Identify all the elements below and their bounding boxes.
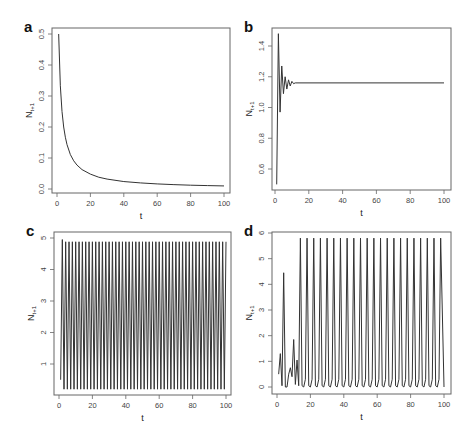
y-tick-label: 1.0 — [257, 102, 266, 112]
y-tick-label: 2 — [257, 334, 266, 338]
panel-label: c — [26, 222, 34, 239]
x-axis: 020406080100 — [273, 190, 450, 205]
panel-label: b — [244, 18, 253, 35]
x-tick-label: 0 — [57, 401, 61, 410]
y-axis: 0.00.10.20.30.40.5 — [37, 29, 52, 194]
x-axis: 020406080100 — [275, 394, 450, 409]
x-axis-label: t — [141, 413, 144, 423]
y-axis: 0123456 — [257, 231, 272, 389]
x-tick-label: 20 — [305, 196, 313, 205]
series-line — [61, 240, 226, 390]
x-tick-label: 0 — [55, 199, 59, 208]
x-tick-label: 80 — [188, 401, 196, 410]
x-axis-label: t — [360, 412, 363, 422]
y-tick-label: 1 — [257, 359, 266, 363]
panel-a: a020406080100t0.00.10.20.30.40.5Nt+1 — [24, 18, 230, 221]
panel-c: c020406080100t12345Nt+1 — [26, 222, 232, 423]
panel-b: b020406080100t0.60.81.01.21.4Nt+1 — [244, 18, 451, 218]
y-tick-label: 5 — [39, 236, 48, 240]
panel-d: d020406080100t0123456Nt+1 — [244, 222, 451, 422]
x-tick-label: 20 — [306, 400, 314, 409]
y-tick-label: 0.2 — [37, 122, 46, 132]
y-axis-label: Nt+1 — [244, 101, 255, 117]
plot-frame — [52, 28, 230, 193]
y-axis-label: Nt+1 — [24, 102, 35, 118]
x-axis-label: t — [140, 211, 143, 221]
x-tick-label: 60 — [373, 400, 381, 409]
y-tick-label: 1.2 — [257, 72, 266, 82]
x-tick-label: 20 — [86, 199, 94, 208]
x-tick-label: 40 — [338, 196, 346, 205]
caption-fragment — [30, 428, 450, 438]
x-tick-label: 40 — [120, 199, 128, 208]
x-tick-label: 80 — [186, 199, 194, 208]
y-tick-label: 4 — [39, 267, 48, 271]
y-tick-label: 4 — [257, 282, 266, 286]
y-tick-label: 1.4 — [257, 41, 266, 51]
x-tick-label: 60 — [155, 401, 163, 410]
y-tick-label: 2 — [39, 330, 48, 334]
y-axis-label: Nt+1 — [244, 305, 255, 321]
y-tick-label: 0.5 — [37, 29, 46, 39]
y-tick-label: 0.8 — [257, 133, 266, 143]
y-tick-label: 3 — [39, 299, 48, 303]
series-line — [277, 34, 444, 185]
x-tick-label: 100 — [438, 400, 451, 409]
y-tick-label: 0.4 — [37, 60, 46, 70]
x-tick-label: 80 — [406, 400, 414, 409]
x-axis-label: t — [360, 208, 363, 218]
series-line — [59, 34, 224, 186]
x-tick-label: 100 — [438, 196, 451, 205]
x-tick-label: 0 — [275, 400, 279, 409]
y-tick-label: 5 — [257, 257, 266, 261]
plot-frame — [272, 28, 451, 190]
y-axis: 0.60.81.01.21.4 — [257, 41, 272, 174]
x-axis: 020406080100 — [57, 395, 232, 410]
x-tick-label: 100 — [220, 401, 233, 410]
x-axis: 020406080100 — [55, 193, 230, 208]
figure-canvas: a020406080100t0.00.10.20.30.40.5Nt+1b020… — [0, 0, 474, 440]
y-tick-label: 0 — [257, 385, 266, 389]
x-tick-label: 80 — [406, 196, 414, 205]
x-tick-label: 100 — [218, 199, 231, 208]
y-tick-label: 0.6 — [257, 164, 266, 174]
y-tick-label: 0.3 — [37, 91, 46, 101]
y-tick-label: 0.1 — [37, 153, 46, 163]
panel-label: a — [24, 18, 33, 35]
y-tick-label: 1 — [39, 362, 48, 366]
x-tick-label: 60 — [372, 196, 380, 205]
x-tick-label: 40 — [122, 401, 130, 410]
series-line — [279, 238, 444, 387]
y-tick-label: 6 — [257, 231, 266, 235]
y-tick-label: 0.0 — [37, 184, 46, 194]
y-tick-label: 3 — [257, 308, 266, 312]
x-tick-label: 0 — [273, 196, 277, 205]
y-axis: 12345 — [39, 236, 54, 366]
y-axis-label: Nt+1 — [26, 305, 37, 321]
x-tick-label: 40 — [340, 400, 348, 409]
panel-label: d — [244, 222, 253, 239]
x-tick-label: 20 — [88, 401, 96, 410]
x-tick-label: 60 — [153, 199, 161, 208]
